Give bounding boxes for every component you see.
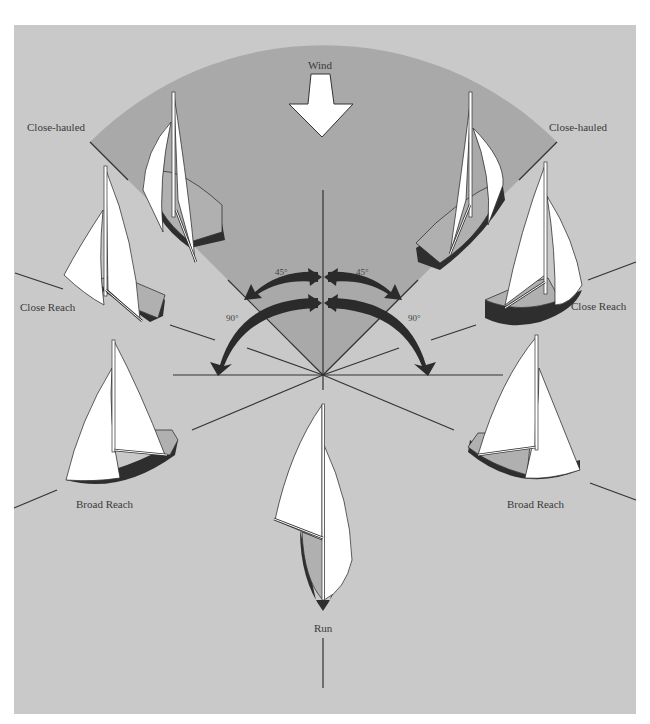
label-close-reach-left: Close Reach xyxy=(20,302,75,313)
label-broad-reach-right: Broad Reach xyxy=(507,499,564,510)
label-broad-reach-left: Broad Reach xyxy=(76,499,133,510)
label-close-reach-right: Close Reach xyxy=(571,301,626,312)
label-close-hauled-right: Close-hauled xyxy=(549,122,607,133)
wind-label: Wind xyxy=(308,60,332,71)
angle-label-left-45: 45° xyxy=(275,268,288,277)
angle-label-left-90: 90° xyxy=(226,314,239,323)
label-close-hauled-left: Close-hauled xyxy=(27,122,85,133)
angle-label-right-90: 90° xyxy=(408,314,421,323)
angle-label-right-45: 45° xyxy=(356,268,369,277)
points-of-sail-diagram xyxy=(0,0,650,724)
label-run: Run xyxy=(314,623,332,634)
